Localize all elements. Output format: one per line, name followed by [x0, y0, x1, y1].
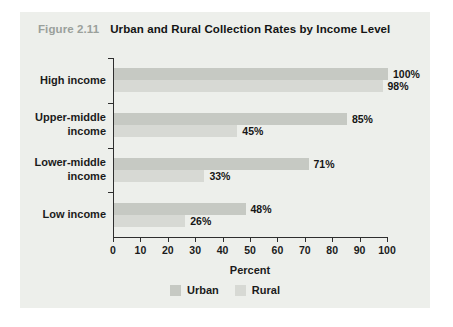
y-axis-tick — [108, 192, 113, 193]
value-label: 45% — [242, 125, 263, 137]
y-axis-tick — [108, 148, 113, 149]
bar-rural — [114, 215, 185, 227]
legend-label-urban: Urban — [187, 284, 219, 296]
bar-urban — [114, 158, 309, 170]
figure-page: Figure 2.11 Urban and Rural Collection R… — [0, 0, 453, 327]
bar-urban — [114, 68, 388, 80]
x-axis-tick — [140, 238, 141, 242]
x-axis-tick-label: 70 — [299, 244, 311, 256]
x-axis-tick — [113, 238, 114, 242]
x-axis-tick — [168, 238, 169, 242]
bar-rural — [114, 170, 204, 182]
value-label: 100% — [393, 68, 420, 80]
legend-label-rural: Rural — [252, 284, 280, 296]
x-axis-tick — [223, 238, 224, 242]
legend: UrbanRural — [20, 284, 430, 296]
value-label: 48% — [251, 203, 272, 215]
x-axis-tick — [250, 238, 251, 242]
x-axis-tick — [387, 238, 388, 242]
figure-panel: Figure 2.11 Urban and Rural Collection R… — [20, 12, 430, 308]
value-label: 71% — [314, 158, 335, 170]
category-label: Low income — [24, 192, 106, 237]
x-axis-tick — [332, 238, 333, 242]
x-axis-tick — [360, 238, 361, 242]
y-axis-tick — [108, 58, 113, 59]
value-label: 26% — [190, 215, 211, 227]
y-axis-tick — [108, 103, 113, 104]
bar-urban — [114, 113, 347, 125]
category-label: High income — [24, 58, 106, 103]
bar-rural — [114, 80, 383, 92]
value-label: 33% — [209, 170, 230, 182]
x-axis-tick-label: 0 — [110, 244, 116, 256]
category-label: Upper-middle income — [24, 103, 106, 148]
bar-chart: High income100%98%Upper-middle income85%… — [20, 12, 430, 308]
x-axis-tick — [277, 238, 278, 242]
category-label: Lower-middle income — [24, 148, 106, 193]
x-axis-tick — [195, 238, 196, 242]
legend-item-rural: Rural — [235, 284, 280, 296]
x-axis-tick-label: 30 — [189, 244, 201, 256]
x-axis-title: Percent — [230, 264, 270, 276]
x-axis-tick-label: 60 — [272, 244, 284, 256]
bar-urban — [114, 203, 246, 215]
value-label: 98% — [388, 80, 409, 92]
legend-swatch-urban — [170, 285, 181, 296]
value-label: 85% — [352, 113, 373, 125]
x-axis-tick-label: 20 — [162, 244, 174, 256]
x-axis-tick-label: 10 — [135, 244, 147, 256]
legend-item-urban: Urban — [170, 284, 219, 296]
legend-swatch-rural — [235, 285, 246, 296]
x-axis-tick-label: 40 — [217, 244, 229, 256]
x-axis-tick-label: 80 — [326, 244, 338, 256]
x-axis-tick-label: 50 — [244, 244, 256, 256]
x-axis-tick-label: 90 — [354, 244, 366, 256]
bar-rural — [114, 125, 237, 137]
x-axis-tick-label: 100 — [378, 244, 396, 256]
x-axis-tick — [305, 238, 306, 242]
